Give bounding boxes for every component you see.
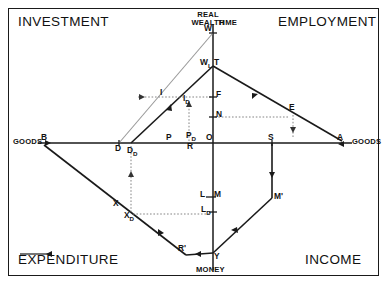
axis-label-money: MONEY xyxy=(196,266,225,274)
axes-group xyxy=(38,24,352,270)
point-ticks xyxy=(119,33,272,212)
money-flow-lines xyxy=(186,251,213,257)
point-label-O: O xyxy=(206,133,213,142)
arrow-dotted-F xyxy=(139,94,145,100)
axis-label-goods-right: GOODS xyxy=(352,138,381,146)
point-label-L: L xyxy=(200,190,205,199)
diagram-lines xyxy=(0,0,388,287)
point-label-X-D: XD xyxy=(124,211,134,223)
point-label-M-prime: M' xyxy=(274,192,283,201)
quadrant-label-investment: INVESTMENT xyxy=(18,14,109,29)
point-label-X: X xyxy=(113,199,119,208)
point-label-D-D: DD xyxy=(127,146,138,158)
arrow-dotted-E-down xyxy=(290,127,296,133)
point-label-L-D: LD xyxy=(201,205,211,217)
investment-line-I xyxy=(119,33,213,143)
point-label-R: R xyxy=(187,142,193,151)
point-label-B: B xyxy=(41,133,47,142)
quadrant-label-expenditure: EXPENDITURE xyxy=(18,252,118,267)
quadrant-label-employment: EMPLOYMENT xyxy=(278,14,377,29)
arrow-dotted-DD-down xyxy=(128,171,134,177)
arrow-money-flow xyxy=(195,251,201,257)
point-label-D-D-sub: D xyxy=(133,150,137,157)
point-label-D: D xyxy=(115,144,121,153)
point-label-R-prime: R' xyxy=(178,244,186,253)
arrow-investment xyxy=(166,104,172,111)
axis-label-goods-left: GOODS xyxy=(13,138,42,146)
point-label-W-lower-sub: L xyxy=(208,62,212,69)
quadrant-label-income: INCOME xyxy=(305,252,361,267)
point-label-N: N xyxy=(216,110,222,119)
point-label-Y: Y xyxy=(214,252,220,261)
goods-axis-markers xyxy=(20,140,344,257)
axis-label-time: TIME xyxy=(218,19,237,27)
investment-line-ID xyxy=(131,66,213,143)
income-line-M-Y xyxy=(213,198,272,253)
point-label-W-top: W xyxy=(204,24,212,33)
diagram-canvas: INVESTMENT EMPLOYMENT EXPENDITURE INCOME… xyxy=(0,0,388,287)
point-label-W-lower: WL xyxy=(200,58,212,70)
employment-line-WT-A xyxy=(213,66,342,141)
point-label-E: E xyxy=(289,103,295,112)
point-label-I-D-sub: D xyxy=(185,98,189,105)
point-label-T: T xyxy=(214,58,219,67)
point-label-S: S xyxy=(268,133,274,142)
employment-lines xyxy=(213,66,342,141)
point-label-W-lower-base: W xyxy=(200,57,208,67)
point-label-A: A xyxy=(337,133,343,142)
investment-lines xyxy=(119,33,213,143)
point-label-I-D: ID xyxy=(183,94,190,106)
point-label-M: M xyxy=(214,190,221,199)
point-label-P: P xyxy=(166,133,172,142)
point-label-X-D-sub: D xyxy=(130,215,134,222)
arrow-income-vertical xyxy=(269,172,275,178)
point-label-F: F xyxy=(216,90,221,99)
point-label-L-D-sub: D xyxy=(206,209,210,216)
arrow-employment xyxy=(252,93,258,99)
income-lines xyxy=(213,143,275,253)
point-label-I: I xyxy=(160,88,162,97)
